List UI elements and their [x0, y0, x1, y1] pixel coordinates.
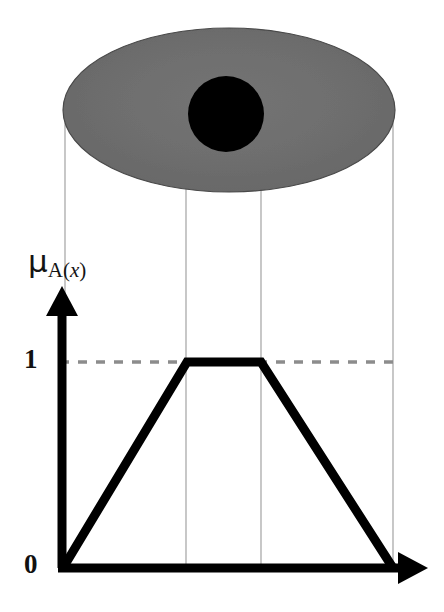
fuzzy-membership-figure: μA(x) 1 0 — [0, 0, 444, 612]
x-axis-arrowhead — [398, 552, 428, 584]
mu-subscript-variable: x — [70, 258, 79, 282]
y-axis-tick-label-one: 1 — [24, 346, 38, 373]
membership-function-curve — [63, 362, 393, 568]
y-axis-title: μA(x) — [28, 246, 86, 281]
mu-subscript: A(x) — [48, 258, 87, 282]
mu-subscript-prefix: A( — [48, 258, 70, 282]
figure-canvas — [0, 0, 444, 612]
mu-subscript-suffix: ) — [79, 258, 86, 282]
y-axis-tick-label-zero: 0 — [24, 551, 38, 578]
y-axis-arrowhead — [46, 286, 78, 316]
mu-symbol: μ — [28, 243, 48, 279]
core-region-circle — [188, 76, 264, 152]
